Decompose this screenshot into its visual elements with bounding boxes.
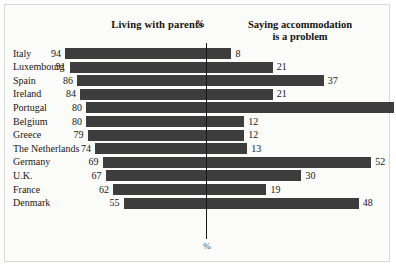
bar-living-with-parents	[70, 62, 207, 73]
header-percent-symbol: %	[193, 19, 207, 29]
value-living-with-parents: 80	[60, 115, 82, 129]
bar-living-with-parents	[77, 75, 206, 86]
chart-row: The Netherlands7413	[5, 142, 391, 156]
right-series-title-line1: Saying accommodation	[214, 19, 386, 31]
value-accommodation-problem: 37	[328, 74, 338, 88]
center-axis-line	[206, 43, 207, 239]
country-label: Portugal	[13, 101, 97, 115]
bar-accommodation-problem	[206, 102, 394, 113]
bar-living-with-parents	[80, 89, 206, 100]
bar-accommodation-problem	[206, 89, 273, 100]
value-accommodation-problem: 52	[375, 155, 385, 169]
value-living-with-parents: 80	[60, 101, 82, 115]
bar-accommodation-problem	[206, 48, 231, 59]
chart-row: Portugal8059	[5, 101, 391, 115]
bar-living-with-parents	[65, 48, 206, 59]
value-living-with-parents: 62	[87, 183, 109, 197]
chart-frame: Living with parents % Saying accommodati…	[4, 4, 390, 262]
value-accommodation-problem: 8	[235, 47, 240, 61]
chart-plot-area: Italy948Luxembourg9121Spain8637Ireland84…	[5, 45, 391, 231]
chart-row: Luxembourg9121	[5, 61, 391, 75]
chart-row: Germany6952	[5, 156, 391, 170]
value-living-with-parents: 55	[98, 196, 120, 210]
value-accommodation-problem: 12	[248, 128, 258, 142]
value-living-with-parents: 91	[44, 60, 66, 74]
bar-accommodation-problem	[206, 184, 266, 195]
axis-percent-label: %	[198, 241, 216, 251]
left-series-title: Living with parents	[105, 19, 203, 30]
value-accommodation-problem: 19	[270, 183, 280, 197]
value-living-with-parents: 84	[54, 87, 76, 101]
chart-row: Denmark5548	[5, 197, 391, 211]
bar-living-with-parents	[95, 143, 206, 154]
value-accommodation-problem: 30	[305, 169, 315, 183]
value-accommodation-problem: 48	[363, 196, 373, 210]
bar-accommodation-problem	[206, 198, 359, 209]
chart-row: Italy948	[5, 47, 391, 61]
country-label: France	[13, 183, 97, 197]
value-living-with-parents: 94	[39, 47, 61, 61]
country-label: Denmark	[13, 196, 97, 210]
bar-accommodation-problem	[206, 170, 301, 181]
value-living-with-parents: 69	[77, 155, 99, 169]
value-living-with-parents: 86	[51, 74, 73, 88]
bar-accommodation-problem	[206, 130, 244, 141]
country-label: Greece	[13, 128, 97, 142]
bar-living-with-parents	[103, 157, 207, 168]
right-series-title: Saying accommodation is a problem	[214, 19, 386, 43]
bar-living-with-parents	[106, 170, 207, 181]
chart-row: Greece7912	[5, 129, 391, 143]
value-accommodation-problem: 21	[277, 87, 287, 101]
value-accommodation-problem: 12	[248, 115, 258, 129]
bar-accommodation-problem	[206, 157, 371, 168]
bar-living-with-parents	[86, 102, 206, 113]
bar-living-with-parents	[88, 130, 207, 141]
country-label: Belgium	[13, 115, 97, 129]
right-series-title-line2: is a problem	[214, 31, 386, 43]
bar-living-with-parents	[113, 184, 206, 195]
bar-living-with-parents	[86, 116, 206, 127]
chart-row: Spain8637	[5, 74, 391, 88]
chart-row: Belgium8012	[5, 115, 391, 129]
value-living-with-parents: 67	[80, 169, 102, 183]
chart-row: Ireland8421	[5, 88, 391, 102]
bar-accommodation-problem	[206, 75, 324, 86]
bar-accommodation-problem	[206, 62, 273, 73]
value-living-with-parents: 74	[69, 142, 91, 156]
bar-accommodation-problem	[206, 143, 247, 154]
chart-row: France6219	[5, 183, 391, 197]
value-living-with-parents: 79	[62, 128, 84, 142]
value-accommodation-problem: 21	[277, 60, 287, 74]
chart-row: U.K.6730	[5, 169, 391, 183]
bar-living-with-parents	[124, 198, 207, 209]
value-accommodation-problem: 13	[251, 142, 261, 156]
bar-accommodation-problem	[206, 116, 244, 127]
